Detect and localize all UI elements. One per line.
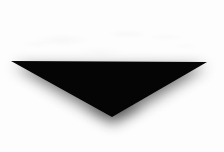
- image-canvas: [0, 0, 224, 152]
- black-triangle-icon: [0, 0, 224, 152]
- triangle-polygon: [11, 61, 207, 117]
